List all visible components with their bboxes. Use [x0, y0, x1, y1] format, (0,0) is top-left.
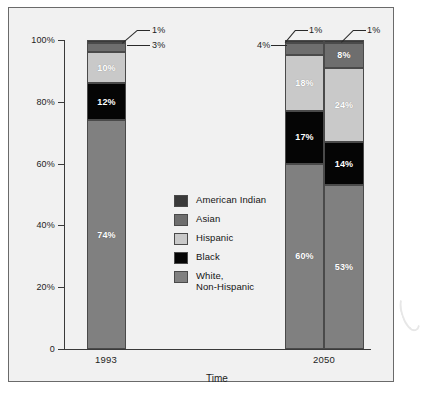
legend-swatch-icon	[174, 195, 188, 207]
bar-segment[interactable]: 18%	[285, 55, 324, 111]
callout-leader-line	[127, 45, 150, 46]
bar-2050-a[interactable]: 60%17%18%	[285, 40, 324, 349]
callout-1993-asian: 3%	[152, 40, 165, 50]
y-axis-tick-label: 60%	[36, 159, 55, 169]
bar-segment-label: 18%	[295, 78, 314, 88]
scan-artifact	[396, 292, 424, 334]
bar-segment-label: 24%	[335, 100, 354, 110]
bar-segment-label: 10%	[97, 63, 116, 73]
legend-swatch-icon	[174, 233, 188, 245]
legend-item-label: Black	[196, 251, 220, 262]
legend-item[interactable]: White, Non-Hispanic	[174, 270, 289, 294]
bar-segment-label: 74%	[97, 230, 116, 240]
y-axis-line	[64, 40, 65, 350]
x-axis-title: Time	[206, 373, 228, 384]
y-axis-tick	[58, 164, 64, 165]
legend-swatch-icon	[174, 252, 188, 264]
bar-segment[interactable]: 14%	[324, 142, 364, 185]
bar-segment[interactable]: 10%	[87, 52, 126, 83]
y-axis-tick-label: 100%	[31, 35, 55, 45]
x-axis-line	[64, 349, 371, 350]
bar-segment[interactable]	[285, 43, 324, 55]
bar-segment-label: 53%	[335, 262, 354, 272]
bar-segment-label: 14%	[335, 159, 354, 169]
legend-swatch-icon	[174, 214, 188, 226]
legend-item-label: Asian	[196, 213, 220, 224]
legend-item-label: White, Non-Hispanic	[196, 270, 254, 292]
callout-leader-line	[295, 30, 308, 31]
y-axis-tick-label: 0	[50, 344, 55, 354]
bar-segment-label: 8%	[337, 50, 350, 60]
x-axis-tick-label: 1993	[95, 354, 117, 365]
chart-frame: 100%80%60%40%20%0 % of Population 74%12%…	[8, 7, 394, 382]
y-axis-tick	[58, 225, 64, 226]
callout-2050b-american-indian: 1%	[367, 25, 380, 35]
callout-leader-line	[271, 45, 287, 46]
x-axis-tick-label: 2050	[313, 354, 335, 365]
bar-1993[interactable]: 74%12%10%	[87, 40, 126, 349]
bar-segment[interactable]	[324, 40, 364, 43]
callout-2050a-asian: 4%	[257, 40, 270, 50]
legend-swatch-icon	[174, 271, 188, 283]
legend-item[interactable]: Black	[174, 251, 289, 265]
y-axis-tick	[58, 287, 64, 288]
bar-segment[interactable]: 74%	[87, 120, 126, 349]
callout-leader-line	[137, 30, 150, 31]
y-axis-tick	[58, 40, 64, 41]
bar-segment-label: 12%	[97, 97, 116, 107]
y-axis-tick-label: 20%	[36, 282, 55, 292]
y-axis-tick	[58, 102, 64, 103]
callout-1993-american-indian: 1%	[152, 25, 165, 35]
bar-segment[interactable]: 17%	[285, 111, 324, 164]
bar-segment[interactable]: 24%	[324, 68, 364, 142]
bar-segment[interactable]: 8%	[324, 43, 364, 68]
bar-segment[interactable]	[285, 40, 324, 43]
y-axis-tick-label: 40%	[36, 220, 55, 230]
bar-segment[interactable]: 12%	[87, 83, 126, 120]
bar-segment[interactable]: 53%	[324, 185, 364, 349]
y-axis-tick-label: 80%	[36, 97, 55, 107]
bar-segment[interactable]	[87, 40, 126, 43]
bar-segment-label: 17%	[295, 132, 314, 142]
legend-item-label: Hispanic	[196, 232, 233, 243]
y-axis-tick	[58, 349, 64, 350]
callout-leader-line	[353, 30, 366, 31]
legend-item[interactable]: American Indian	[174, 194, 289, 208]
legend-item[interactable]: Hispanic	[174, 232, 289, 246]
legend-item[interactable]: Asian	[174, 213, 289, 227]
bar-2050-b[interactable]: 53%14%24%8%	[324, 40, 364, 349]
callout-2050a-american-indian: 1%	[309, 25, 322, 35]
legend: American IndianAsianHispanicBlackWhite, …	[174, 194, 289, 299]
bar-segment[interactable]: 60%	[285, 164, 324, 349]
bar-segment-label: 60%	[295, 251, 314, 261]
callout-leader-diagonal	[122, 30, 138, 44]
legend-item-label: American Indian	[196, 194, 266, 205]
bar-segment[interactable]	[87, 43, 126, 52]
